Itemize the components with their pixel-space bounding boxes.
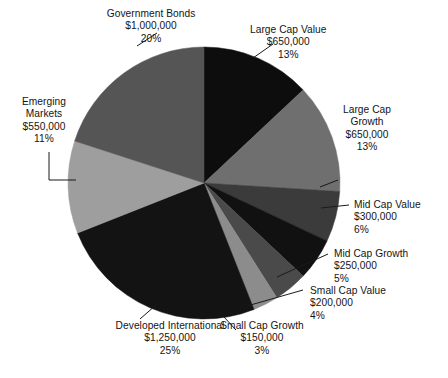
slice-label-large-cap-value: Large Cap Value $650,000 13%: [250, 24, 326, 61]
slice-label-name-line2: Growth: [343, 116, 391, 128]
slice-label-name: Small Cap Growth: [220, 320, 303, 332]
slice-label-name: Government Bonds: [107, 8, 196, 20]
slice-label-name: Developed International: [116, 320, 225, 332]
slice-label-amount: $650,000: [343, 129, 391, 141]
slice-label-amount: $550,000: [22, 121, 66, 133]
slice-label-amount: $250,000: [334, 260, 408, 272]
slice-label-mid-cap-growth: Mid Cap Growth $250,000 5%: [334, 248, 408, 285]
pie-slices-group: [68, 47, 340, 319]
slice-label-amount: $200,000: [310, 297, 386, 309]
slice-label-percent: 13%: [343, 141, 391, 153]
slice-label-percent: 13%: [250, 49, 326, 61]
slice-label-name: Small Cap Value: [310, 285, 386, 297]
slice-label-amount: $150,000: [220, 332, 303, 344]
slice-label-percent: 25%: [116, 345, 225, 357]
slice-label-percent: 4%: [310, 310, 386, 322]
slice-label-developed-international: Developed International $1,250,000 25%: [116, 320, 225, 357]
slice-label-percent: 11%: [22, 133, 66, 145]
pie-chart: Government Bonds $1,000,000 20% Emerging…: [0, 0, 448, 378]
slice-label-name: Large Cap Value: [250, 24, 326, 36]
slice-label-percent: 5%: [334, 273, 408, 285]
slice-label-government-bonds: Government Bonds $1,000,000 20%: [107, 8, 196, 45]
slice-label-name: Mid Cap Growth: [334, 248, 408, 260]
slice-label-emerging-markets: Emerging Markets $550,000 11%: [22, 96, 66, 146]
slice-label-name-line2: Markets: [22, 108, 66, 120]
slice-label-percent: 6%: [354, 224, 421, 236]
slice-label-amount: $1,250,000: [116, 332, 225, 344]
slice-label-small-cap-growth: Small Cap Growth $150,000 3%: [220, 320, 303, 357]
slice-label-percent: 3%: [220, 345, 303, 357]
slice-label-name: Mid Cap Value: [354, 199, 421, 211]
slice-label-mid-cap-value: Mid Cap Value $300,000 6%: [354, 199, 421, 236]
slice-label-name-line1: Emerging: [22, 96, 66, 108]
slice-label-amount: $650,000: [250, 36, 326, 48]
slice-label-large-cap-growth: Large Cap Growth $650,000 13%: [343, 104, 391, 154]
slice-label-percent: 20%: [107, 33, 196, 45]
slice-label-amount: $1,000,000: [107, 20, 196, 32]
slice-label-amount: $300,000: [354, 211, 421, 223]
slice-label-small-cap-value: Small Cap Value $200,000 4%: [310, 285, 386, 322]
slice-label-name-line1: Large Cap: [343, 104, 391, 116]
